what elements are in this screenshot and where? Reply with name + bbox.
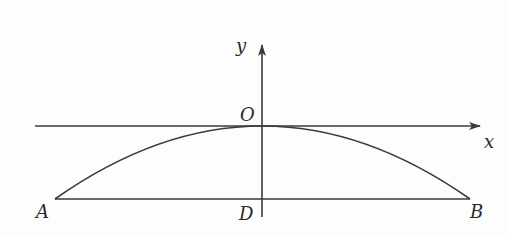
origin-label: O — [240, 104, 255, 125]
y-axis-label: y — [235, 35, 247, 56]
point-B-label: B — [469, 201, 483, 222]
diagram-canvas: y O x A B D — [0, 0, 508, 237]
diagram-svg: y O x A B D — [0, 0, 508, 237]
point-D-label: D — [238, 203, 254, 224]
x-axis-label: x — [484, 131, 494, 152]
point-A-label: A — [34, 201, 49, 222]
